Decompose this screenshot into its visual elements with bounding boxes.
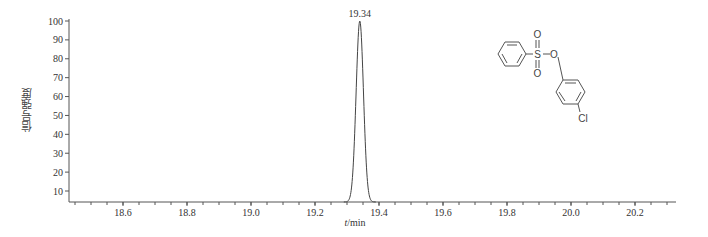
x-tick-label: 19.6 <box>434 207 452 218</box>
sulfur-label: S <box>534 49 541 60</box>
y-tick-label: 60 <box>53 91 63 102</box>
x-tick-label: 19.2 <box>306 207 324 218</box>
y-tick-label: 80 <box>53 53 63 64</box>
x-tick-label: 20.2 <box>626 207 644 218</box>
y-tick-label: 70 <box>53 72 63 83</box>
x-tick-label: 18.8 <box>178 207 196 218</box>
x-tick-label: 20.0 <box>562 207 580 218</box>
chlorine-label: Cl <box>578 113 587 124</box>
y-tick-label: 90 <box>53 34 63 45</box>
molecule-structure <box>498 40 585 112</box>
y-tick-label: 10 <box>53 186 63 197</box>
y-tick-label: 30 <box>53 148 63 159</box>
x-axis-title: t/min <box>344 217 365 228</box>
chromatogram-chart: 102030405060708090100 18.618.819.019.219… <box>0 0 708 237</box>
oxygen-label-ester: O <box>550 49 558 60</box>
oxygen-label-bottom: O <box>534 68 542 79</box>
x-tick-label: 19.4 <box>370 207 388 218</box>
axes <box>69 19 676 202</box>
y-tick-label: 50 <box>53 110 63 121</box>
y-tick-label: 20 <box>53 167 63 178</box>
x-tick-label: 19.8 <box>498 207 516 218</box>
oxygen-label-top: O <box>534 29 542 40</box>
y-tick-label: 40 <box>53 129 63 140</box>
chromatogram-trace <box>344 21 376 202</box>
peak-label: 19.34 <box>349 8 372 19</box>
x-tick-label: 19.0 <box>242 207 260 218</box>
x-tick-label: 18.6 <box>114 207 132 218</box>
x-axis-ticks: 18.618.819.019.219.419.619.820.020.2 <box>75 202 667 218</box>
y-axis-ticks: 102030405060708090100 <box>48 16 69 197</box>
y-tick-label: 100 <box>48 16 63 27</box>
